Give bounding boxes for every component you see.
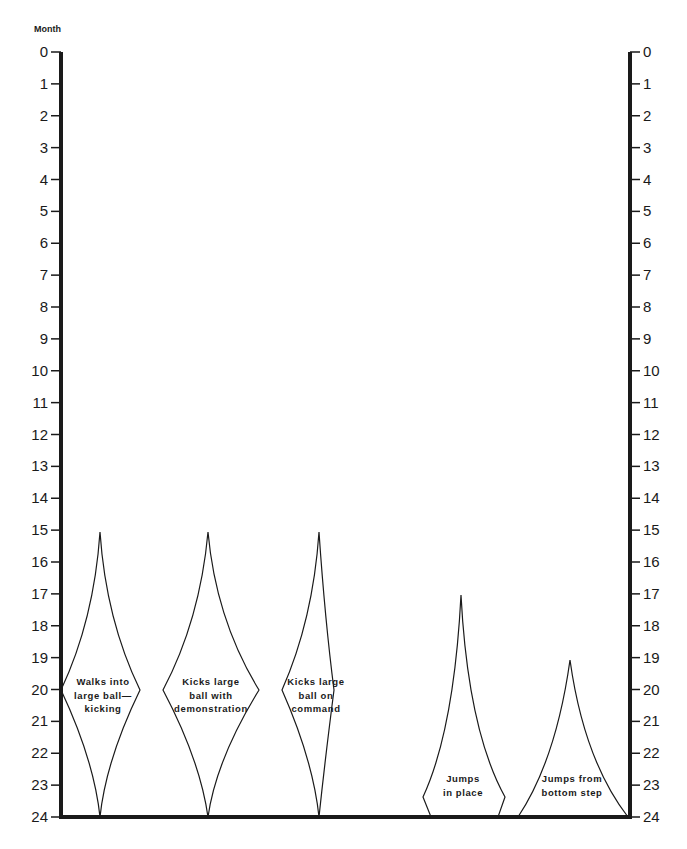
left-tick-label: 11: [32, 394, 48, 411]
label-line: Kicks large: [287, 675, 344, 689]
label-jumps-in-place: Jumps in place: [443, 772, 483, 799]
left-tick-label: 24: [31, 808, 48, 825]
label-line: kicking: [74, 702, 132, 716]
left-tick-label: 1: [40, 75, 48, 92]
label-walks-into-ball-kicking: Walks into large ball— kicking: [74, 675, 132, 716]
label-line: large ball—: [74, 689, 132, 703]
right-tick-label: 23: [643, 776, 660, 793]
left-tick-label: 22: [31, 744, 48, 761]
right-tick-label: 18: [643, 617, 660, 634]
left-tick-label: 8: [40, 298, 48, 315]
right-axis-ticks: 0123456789101112131415161718192021222324: [630, 43, 660, 825]
right-tick-label: 8: [643, 298, 651, 315]
left-tick-label: 2: [40, 107, 48, 124]
left-tick-label: 14: [31, 489, 48, 506]
right-tick-label: 4: [643, 171, 651, 188]
left-tick-label: 5: [40, 202, 48, 219]
label-jumps-from-bottom-step: Jumps from bottom step: [542, 772, 603, 799]
label-line: command: [287, 702, 344, 716]
label-line: bottom step: [542, 786, 603, 800]
left-tick-label: 10: [31, 362, 48, 379]
right-tick-label: 19: [643, 649, 660, 666]
y-axis-title: Month: [34, 24, 61, 34]
label-line: ball with: [174, 689, 248, 703]
label-line: Walks into: [74, 675, 132, 689]
left-tick-label: 13: [31, 457, 48, 474]
right-tick-label: 2: [643, 107, 651, 124]
left-tick-label: 16: [31, 553, 48, 570]
left-tick-label: 23: [31, 776, 48, 793]
right-tick-label: 5: [643, 202, 651, 219]
label-line: in place: [443, 786, 483, 800]
right-tick-label: 22: [643, 744, 660, 761]
right-tick-label: 1: [643, 75, 651, 92]
right-tick-label: 9: [643, 330, 651, 347]
right-tick-label: 24: [643, 808, 660, 825]
left-tick-label: 17: [31, 585, 48, 602]
right-tick-label: 11: [643, 394, 659, 411]
left-tick-label: 20: [31, 681, 48, 698]
label-line: ball on: [287, 689, 344, 703]
left-tick-label: 18: [31, 617, 48, 634]
right-tick-label: 3: [643, 139, 651, 156]
left-tick-label: 21: [31, 712, 48, 729]
label-kicks-on-command: Kicks large ball on command: [287, 675, 344, 716]
right-tick-label: 21: [643, 712, 660, 729]
left-tick-label: 6: [40, 234, 48, 251]
right-tick-label: 0: [643, 43, 651, 60]
left-axis-ticks: 0123456789101112131415161718192021222324: [31, 43, 61, 825]
right-tick-label: 6: [643, 234, 651, 251]
right-tick-label: 14: [643, 489, 660, 506]
label-line: Jumps from: [542, 772, 603, 786]
left-tick-label: 4: [40, 171, 48, 188]
right-tick-label: 17: [643, 585, 660, 602]
left-tick-label: 7: [40, 266, 48, 283]
right-tick-label: 15: [643, 521, 660, 538]
developmental-chart: Month 0123456789101112131415161718192021…: [0, 0, 687, 849]
label-line: demonstration: [174, 702, 248, 716]
label-kicks-with-demonstration: Kicks large ball with demonstration: [174, 675, 248, 716]
right-tick-label: 13: [643, 457, 660, 474]
right-tick-label: 20: [643, 681, 660, 698]
right-tick-label: 12: [643, 426, 660, 443]
right-tick-label: 10: [643, 362, 660, 379]
left-tick-label: 19: [31, 649, 48, 666]
left-tick-label: 0: [40, 43, 48, 60]
label-line: Kicks large: [174, 675, 248, 689]
left-tick-label: 9: [40, 330, 48, 347]
label-line: Jumps: [443, 772, 483, 786]
left-tick-label: 15: [31, 521, 48, 538]
left-tick-label: 12: [31, 426, 48, 443]
right-tick-label: 16: [643, 553, 660, 570]
right-tick-label: 7: [643, 266, 651, 283]
left-tick-label: 3: [40, 139, 48, 156]
